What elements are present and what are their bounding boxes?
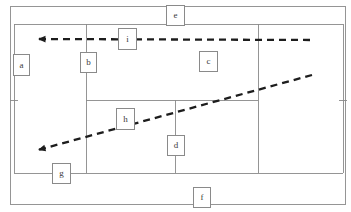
label-f[interactable]: f	[193, 187, 211, 208]
label-a-text: a	[20, 61, 24, 70]
label-e[interactable]: e	[166, 5, 185, 26]
label-c-text: c	[207, 57, 211, 66]
label-f-text: f	[201, 193, 204, 202]
label-d-text: d	[174, 141, 179, 150]
label-a[interactable]: a	[13, 54, 30, 76]
label-g[interactable]: g	[52, 163, 71, 184]
label-b[interactable]: b	[80, 52, 97, 73]
label-c[interactable]: c	[199, 51, 218, 72]
label-i-text: i	[126, 35, 129, 44]
label-i[interactable]: i	[118, 28, 137, 50]
label-h[interactable]: h	[116, 108, 135, 130]
label-d[interactable]: d	[167, 135, 185, 156]
label-b-text: b	[86, 58, 91, 67]
label-h-text: h	[123, 115, 128, 124]
diagram-canvas: abcdefghi	[0, 0, 351, 212]
label-e-text: e	[174, 11, 178, 20]
label-g-text: g	[59, 169, 64, 178]
horizontal-dashed-arrow-arrowhead	[38, 36, 46, 43]
horizontal-dashed-arrow	[38, 39, 310, 40]
